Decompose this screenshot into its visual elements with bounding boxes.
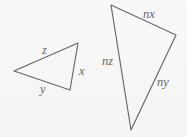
side-label-ny: ny xyxy=(157,76,169,89)
side-label-nx: nx xyxy=(143,8,155,21)
side-label-y: y xyxy=(40,83,46,96)
side-label-nz: nz xyxy=(102,55,113,68)
side-label-z: z xyxy=(42,44,47,57)
side-label-x: x xyxy=(79,65,85,78)
large-triangle-outline xyxy=(111,5,176,130)
figure-canvas xyxy=(0,0,187,137)
similar-triangles-figure: z x y nx nz ny xyxy=(0,0,187,137)
